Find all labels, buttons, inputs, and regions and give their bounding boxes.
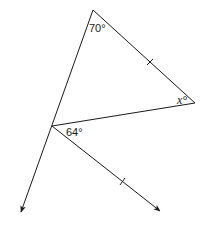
angle-label-bottom: 64° (66, 126, 83, 138)
side-top-right (93, 10, 195, 103)
side-right-left (52, 103, 195, 126)
angle-label-top: 70° (89, 22, 106, 34)
lower-ray (52, 126, 160, 211)
geometry-diagram: 70° x° 64° (0, 0, 204, 228)
side-top-left-extended-ray (21, 10, 93, 212)
tick-mark-lower-ray (120, 178, 125, 185)
angle-label-right: x° (176, 93, 187, 107)
